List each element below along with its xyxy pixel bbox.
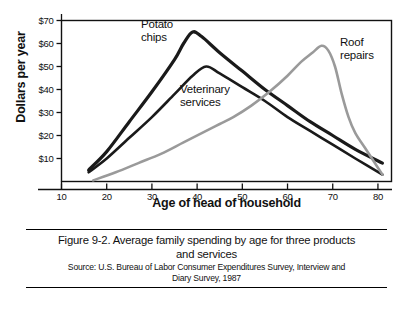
caption-source: Source: U.S. Bureau of Labor Consumer Ex…	[26, 261, 387, 287]
y-tick-label: $50	[20, 61, 54, 72]
figure-container: Dollars per year Age of head of househol…	[0, 0, 413, 314]
veterinary-services-label: Veterinaryservices	[180, 83, 230, 108]
caption-rule-bottom	[26, 287, 387, 288]
caption-block: Figure 9-2. Average family spending by a…	[26, 229, 387, 288]
source-line-2: Diary Survey, 1987	[26, 273, 387, 284]
annotation-line: services	[180, 96, 230, 109]
y-tick-label: $10	[20, 153, 54, 164]
roof-repairs-label: Roofrepairs	[340, 36, 374, 61]
annotation-line: Roof	[340, 36, 374, 49]
y-tick-label: $60	[20, 38, 54, 49]
x-tick-label: 30	[140, 191, 164, 202]
x-tick-label: 80	[366, 191, 390, 202]
y-tick-label: $30	[20, 107, 54, 118]
y-axis-title: Dollars per year	[14, 18, 28, 136]
data-series-layer	[89, 32, 383, 181]
x-tick-label: 20	[95, 191, 119, 202]
y-tick-label: $20	[20, 130, 54, 141]
x-tick-label: 70	[321, 191, 345, 202]
chart-plot-area: Dollars per year Age of head of househol…	[0, 0, 413, 215]
annotation-line: Veterinary	[180, 83, 230, 96]
annotation-line: Potato	[141, 18, 173, 31]
x-tick-label: 10	[50, 191, 74, 202]
annotation-line: repairs	[340, 49, 374, 62]
source-line-1: Source: U.S. Bureau of Labor Consumer Ex…	[26, 262, 387, 273]
y-tick-label: $40	[20, 84, 54, 95]
caption-line-2: and services	[26, 248, 387, 262]
potato-chips-label: Potatochips	[141, 18, 173, 43]
x-tick-label: 60	[276, 191, 300, 202]
x-tick-label: 40	[185, 191, 209, 202]
y-tick-label: $70	[20, 15, 54, 26]
caption-figure-title: Figure 9-2. Average family spending by a…	[26, 230, 387, 261]
x-tick-label: 50	[230, 191, 254, 202]
caption-line-1: Figure 9-2. Average family spending by a…	[26, 234, 387, 248]
annotation-line: chips	[141, 31, 173, 44]
